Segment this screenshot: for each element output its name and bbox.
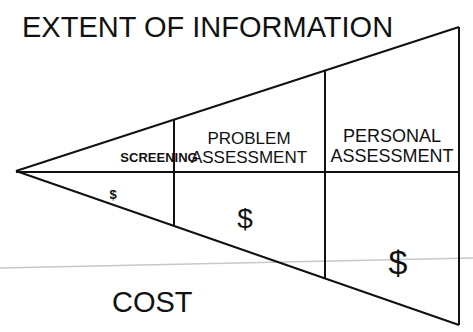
segment-label-problem-line2: ASSESSMENT <box>191 148 307 167</box>
segment-label-personal-line1: PERSONAL <box>343 126 441 146</box>
segment-label-personal-line2: ASSESSMENT <box>330 146 453 166</box>
diagram-title: EXTENT OF INFORMATION <box>22 11 393 43</box>
extent-cost-wedge-diagram: EXTENT OF INFORMATION SCREENING PROBLEM … <box>0 0 473 332</box>
cost-label: COST <box>112 286 193 318</box>
cost-symbol-screening: $ <box>109 187 117 202</box>
segment-label-screening: SCREENING <box>120 150 197 165</box>
cost-symbol-problem: $ <box>237 203 253 234</box>
segment-label-problem-line1: PROBLEM <box>207 129 290 148</box>
cost-symbol-personal: $ <box>389 243 408 281</box>
